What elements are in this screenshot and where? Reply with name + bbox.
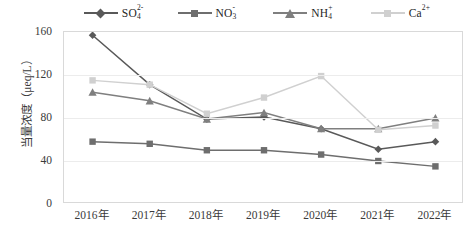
legend-label-so4-base: SO <box>122 7 137 19</box>
legend-item-ca[interactable]: Ca2+2+ <box>371 7 431 19</box>
legend-marker-nh4-triangle-icon <box>273 7 307 19</box>
legend-symbol-no3 <box>191 10 198 17</box>
legend-label-no3-sub: 3 <box>233 12 237 21</box>
legend-label-nh4: NH4++4 <box>311 7 336 19</box>
legend-label-so4-sub: 4 <box>137 12 141 21</box>
x-axis-ticks: 2016年2017年2018年2019年2020年2021年2022年 <box>63 206 463 228</box>
data-point-s3-x2 <box>204 111 210 117</box>
data-point-s3-x0 <box>89 77 95 83</box>
y-axis-ticks: 04080120160 <box>0 31 58 203</box>
legend-marker-ca-square-icon <box>371 7 405 19</box>
legend-symbol-ca <box>384 10 391 17</box>
legend-label-so4-sup: 2- <box>137 3 144 12</box>
legend-item-nh4[interactable]: NH4++4 <box>273 7 336 19</box>
y-tick-label-40: 40 <box>41 154 53 166</box>
data-point-s0-x5 <box>374 145 382 153</box>
legend-symbol-so4 <box>95 9 105 19</box>
legend-label-ca-base: Ca <box>409 7 422 19</box>
data-point-s0-x6 <box>432 138 440 146</box>
series-line-1 <box>93 142 436 167</box>
legend-label-no3-charges: 3--3 <box>233 7 240 19</box>
legend-marker-so4-diamond-icon <box>84 7 118 19</box>
gridline-y-80 <box>64 118 462 119</box>
legend-marker-no3-square-icon <box>178 7 212 19</box>
plot-area <box>63 31 463 203</box>
legend-label-no3: NO3--3 <box>216 7 240 19</box>
x-tick-label-2: 2018年 <box>189 206 223 222</box>
gridline-y-40 <box>64 161 462 162</box>
legend-label-nh4-base: NH <box>311 7 328 19</box>
x-tick-label-1: 2017年 <box>132 206 166 222</box>
data-point-s1-x0 <box>89 138 95 144</box>
data-point-s1-x4 <box>318 151 324 157</box>
legend-label-ca-charges: 2+2+ <box>422 7 430 19</box>
series-line-0 <box>93 35 436 149</box>
legend-label-nh4-sup: + <box>328 3 332 12</box>
x-tick-label-6: 2022年 <box>417 206 451 222</box>
legend-label-so4-charges: 2-2-4 <box>137 7 144 19</box>
data-point-s1-x2 <box>204 147 210 153</box>
legend-item-so4[interactable]: SO2-2-4 <box>84 7 144 19</box>
legend-label-ca-sup: 2+ <box>422 3 430 12</box>
y-tick-label-120: 120 <box>35 68 52 80</box>
legend-label-ca: Ca2+2+ <box>409 7 431 19</box>
data-point-s3-x3 <box>261 94 267 100</box>
chart-legend: SO2-2-4 NO3--3 NH4++4 <box>0 2 474 24</box>
series-1 <box>89 138 438 169</box>
data-point-s1-x3 <box>261 147 267 153</box>
chart-container: SO2-2-4 NO3--3 NH4++4 <box>0 0 474 240</box>
x-tick-label-0: 2016年 <box>75 206 109 222</box>
legend-label-nh4-sub: 4 <box>328 12 332 21</box>
series-3 <box>89 73 438 133</box>
x-tick-label-3: 2019年 <box>246 206 280 222</box>
y-tick-label-160: 160 <box>35 25 52 37</box>
series-0 <box>89 32 439 153</box>
data-point-s3-x1 <box>147 81 153 87</box>
data-point-s1-x6 <box>432 163 438 169</box>
y-tick-label-80: 80 <box>41 111 53 123</box>
data-point-s3-x6 <box>432 122 438 128</box>
data-point-s3-x5 <box>375 127 381 133</box>
legend-label-no3-base: NO <box>216 7 233 19</box>
gridline-y-120 <box>64 75 462 76</box>
legend-label-so4: SO2-2-4 <box>122 7 144 19</box>
legend-symbol-nh4 <box>285 9 295 18</box>
x-tick-label-4: 2020年 <box>303 206 337 222</box>
legend-label-nh4-charges: 4++4 <box>328 7 336 19</box>
legend-item-no3[interactable]: NO3--3 <box>178 7 240 19</box>
x-tick-label-5: 2021年 <box>360 206 394 222</box>
data-point-s1-x1 <box>147 141 153 147</box>
data-point-s3-x4 <box>318 73 324 79</box>
legend-label-no3-sup: - <box>233 3 236 12</box>
series-line-3 <box>93 76 436 130</box>
y-tick-label-0: 0 <box>46 197 52 209</box>
